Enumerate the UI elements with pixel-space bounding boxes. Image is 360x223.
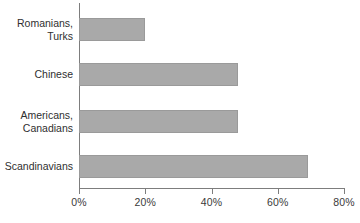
x-tick-label: 60%	[267, 196, 289, 208]
bar	[79, 18, 145, 41]
x-tick-label: 80%	[333, 196, 355, 208]
category-label: Chinese	[0, 68, 73, 81]
x-tick-40	[212, 189, 213, 194]
bar-chart: 0%20%40%60%80% Romanians, TurksChineseAm…	[0, 0, 360, 223]
category-label: Americans, Canadians	[0, 109, 73, 134]
bar	[79, 155, 308, 178]
bar	[79, 63, 238, 86]
clipped-footer-remnant	[0, 219, 360, 223]
category-label: Scandinavians	[0, 160, 73, 173]
x-tick-label: 20%	[134, 196, 156, 208]
x-tick-0	[79, 189, 80, 194]
x-tick-label: 0%	[71, 196, 87, 208]
category-label: Romanians, Turks	[0, 17, 73, 42]
bar	[79, 110, 238, 133]
x-tick-60	[278, 189, 279, 194]
plot-area	[79, 3, 344, 188]
x-tick-20	[145, 189, 146, 194]
x-tick-80	[344, 189, 345, 194]
x-tick-label: 40%	[201, 196, 223, 208]
